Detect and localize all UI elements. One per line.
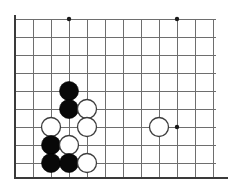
white-stone[interactable]	[78, 100, 97, 119]
star-point-icon	[175, 17, 179, 21]
star-point-icon	[67, 17, 71, 21]
black-stone[interactable]	[60, 82, 79, 101]
black-stone[interactable]	[42, 154, 61, 173]
white-stone[interactable]	[60, 136, 79, 155]
grid-vertical-lines	[15, 19, 213, 178]
white-stone[interactable]	[78, 118, 97, 137]
white-stone[interactable]	[150, 118, 169, 137]
white-stone[interactable]	[78, 154, 97, 173]
black-stone[interactable]	[42, 136, 61, 155]
go-board-surface[interactable]	[0, 0, 244, 195]
black-stone[interactable]	[60, 100, 79, 119]
star-point-icon	[175, 125, 179, 129]
black-stone[interactable]	[60, 154, 79, 173]
board-edge-lines	[14, 15, 228, 178]
go-board-diagram	[0, 0, 244, 195]
go-board-canvas[interactable]	[0, 0, 244, 195]
white-stone[interactable]	[42, 118, 61, 137]
